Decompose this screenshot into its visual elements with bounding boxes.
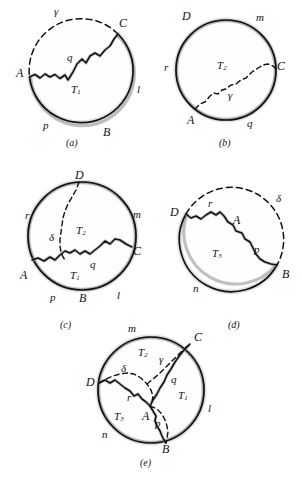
region-label-T1-a: T1: [71, 84, 81, 96]
label-B-c: B: [79, 292, 86, 304]
label-gamma-e: γ: [159, 354, 163, 365]
label-l-c: l: [117, 290, 120, 301]
region-label-T3-e: T3: [114, 411, 124, 423]
panel-a: γ C A q l p B T1: [18, 8, 148, 140]
label-B-d: B: [282, 268, 289, 280]
label-B-a: B: [103, 126, 110, 138]
label-m-b: m: [256, 12, 264, 23]
region-label-T1-c: T1: [70, 270, 80, 282]
label-n-d: n: [193, 283, 199, 294]
label-C-b: C: [277, 60, 285, 72]
label-r-d: r: [208, 198, 212, 209]
region-label-T3-d: T3: [212, 248, 222, 260]
caption-d: (d): [228, 320, 240, 330]
label-n-e: n: [102, 429, 108, 440]
panel-e: m C γ δ D q r l A p n B T2 T1 T3: [85, 326, 221, 458]
label-A-a: A: [16, 67, 23, 79]
region-label-T2-b: T2: [217, 60, 227, 72]
label-C-a: C: [119, 17, 127, 29]
label-r-b: r: [164, 62, 168, 73]
label-C-e: C: [194, 331, 202, 343]
label-q-b: q: [247, 118, 253, 129]
label-gamma-a: γ: [54, 6, 58, 17]
label-gamma-b: γ: [228, 90, 232, 101]
label-m-c: m: [133, 209, 141, 220]
panel-c: D r m δ C q A p l T2 T1: [20, 172, 150, 308]
label-p-d: p: [254, 244, 260, 255]
label-p-c: p: [50, 292, 56, 303]
panel-d: δ D r A p n B T3: [172, 176, 298, 310]
label-m-e: m: [128, 323, 136, 334]
label-A-c: A: [20, 269, 27, 281]
label-l-a: l: [137, 84, 140, 95]
caption-a: (a): [66, 138, 78, 148]
label-q-a: q: [67, 52, 73, 63]
label-delta-d: δ: [276, 193, 281, 204]
label-r-c: r: [25, 210, 29, 221]
region-label-T1-e: T1: [178, 390, 188, 402]
label-delta-e: δ: [121, 363, 126, 374]
label-q-e: q: [171, 374, 177, 385]
region-label-T2-e: T2: [138, 347, 148, 359]
label-r-e: r: [127, 392, 131, 403]
label-l-e: l: [208, 403, 211, 414]
panel-a-diagram: [18, 8, 148, 140]
caption-c: (c): [60, 320, 71, 330]
caption-b: (b): [219, 138, 231, 148]
panel-b: D m r C γ A q T2: [168, 10, 290, 136]
panel-c-diagram: [20, 172, 150, 308]
label-q-c: q: [90, 259, 96, 270]
label-A-d: A: [233, 214, 240, 226]
label-A-b: A: [187, 114, 194, 126]
label-C-c: C: [133, 245, 141, 257]
label-p-a: p: [43, 120, 49, 131]
label-A-e: A: [142, 410, 149, 422]
label-p-e: p: [155, 418, 161, 429]
label-B-e: B: [162, 443, 169, 455]
caption-e: (e): [140, 458, 151, 468]
label-delta-c: δ: [49, 232, 54, 243]
label-D-c: D: [75, 169, 84, 181]
region-label-T2-c: T2: [76, 225, 86, 237]
figure-container: γ C A q l p B T1 (a) D m r C γ A q T2 (b…: [0, 0, 302, 481]
label-D-d: D: [170, 206, 179, 218]
label-D-b: D: [182, 10, 191, 22]
label-D-e: D: [86, 376, 95, 388]
